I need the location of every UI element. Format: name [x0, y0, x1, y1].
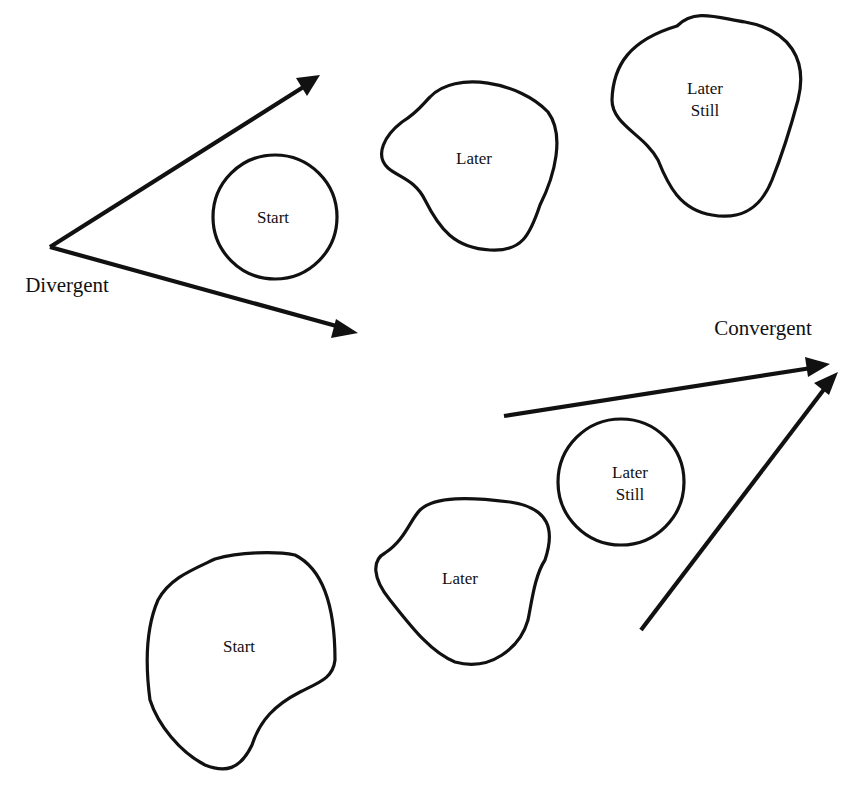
convergent-later-still-circle	[558, 419, 684, 545]
convergent-later-still-stage: Later Still	[558, 419, 684, 545]
divergent-later-still-label-line1: Later	[687, 79, 723, 98]
divergent-later-still-stage: Later Still	[612, 16, 801, 217]
divergent-group: Divergent Start Later Later Still	[25, 16, 800, 338]
convergent-arrow-lower	[641, 372, 838, 630]
divergent-start-stage: Start	[213, 155, 337, 279]
divergent-later-stage: Later	[382, 82, 557, 250]
convergent-start-stage: Start	[147, 553, 335, 769]
divergent-label: Divergent	[25, 273, 109, 297]
convergent-start-blob	[147, 553, 335, 769]
convergent-arrow-upper	[504, 357, 830, 416]
convergent-later-still-label-line2: Still	[616, 485, 645, 504]
divergent-later-still-label-line2: Still	[691, 101, 720, 120]
divergent-convergent-diagram: Divergent Start Later Later Still Conver…	[0, 0, 847, 788]
convergent-later-label: Later	[442, 569, 478, 588]
divergent-start-label: Start	[257, 208, 289, 227]
convergent-label: Convergent	[714, 316, 812, 340]
convergent-start-label: Start	[223, 637, 255, 656]
convergent-group: Convergent Start Later Later Still	[147, 316, 838, 769]
convergent-later-still-label-line1: Later	[612, 463, 648, 482]
convergent-later-stage: Later	[376, 499, 550, 665]
divergent-later-label: Later	[456, 149, 492, 168]
